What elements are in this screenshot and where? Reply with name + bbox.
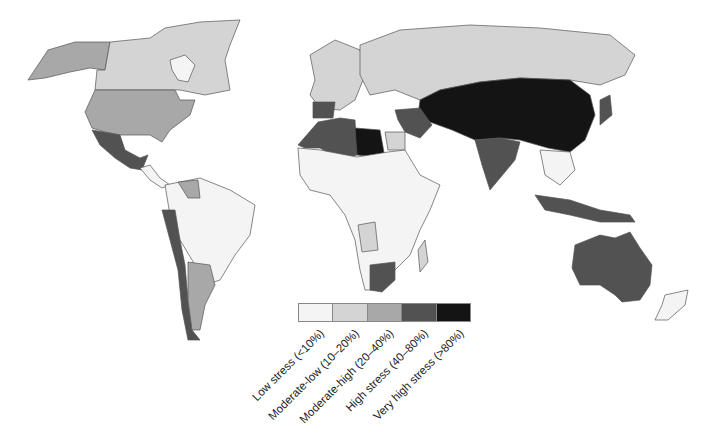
region-canada [95, 20, 240, 95]
region-india [475, 138, 520, 190]
legend-swatch-moderate-low [333, 304, 367, 321]
region-madagascar [418, 240, 428, 272]
region-angola-tanzania [358, 222, 378, 252]
region-egypt [385, 132, 405, 150]
region-mexico [92, 130, 148, 170]
legend-swatch-low [299, 304, 333, 321]
region-indonesia [535, 195, 635, 222]
region-japan [600, 95, 612, 125]
region-europe [310, 40, 365, 110]
region-south-africa [370, 262, 395, 292]
region-sub-saharan-africa [298, 148, 440, 290]
region-southeast-asia [540, 150, 575, 185]
legend-swatch-moderate-high [368, 304, 402, 321]
region-australia [572, 232, 652, 302]
legend-swatch-very-high [437, 304, 470, 321]
region-argentina [188, 262, 215, 330]
legend-swatch-high [402, 304, 436, 321]
legend-bar [298, 303, 471, 322]
region-new-zealand [655, 290, 688, 320]
region-iberia [313, 102, 335, 118]
